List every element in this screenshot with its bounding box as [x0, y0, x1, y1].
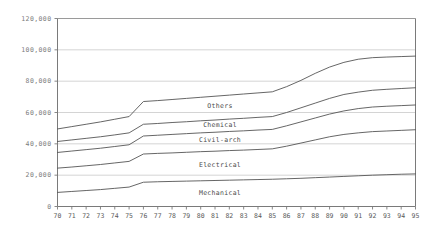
- y-axis-label: 0: [0, 203, 52, 211]
- series-label-mechanical: Mechanical: [0, 189, 440, 197]
- series-line-chemical: [58, 88, 416, 142]
- y-axis-label: 80,000: [0, 77, 52, 85]
- series-label-electrical: Electrical: [0, 161, 440, 169]
- y-axis-label: 100,000: [0, 46, 52, 54]
- series-line-others: [58, 56, 416, 129]
- chart-plot-area: [0, 0, 440, 238]
- series-label-civil-arch: Civil-arch: [0, 136, 440, 144]
- y-axis-label: 120,000: [0, 15, 52, 23]
- y-axis-label: 20,000: [0, 171, 52, 179]
- x-axis-label: 95: [406, 212, 426, 220]
- series-label-chemical: Chemical: [0, 121, 440, 129]
- series-label-others: Others: [0, 102, 440, 110]
- chart-container: 020,00040,00060,00080,000100,000120,0007…: [0, 0, 440, 238]
